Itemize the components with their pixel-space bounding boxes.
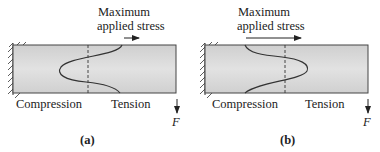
beam-stress-diagram: Maximum applied stress Compression Tensi…	[0, 0, 380, 152]
compression-label: Compression	[16, 97, 83, 111]
force-label: F	[171, 115, 180, 129]
tension-label: Tension	[305, 97, 345, 111]
panel-a: Maximum applied stress Compression Tensi…	[8, 5, 180, 147]
beam	[205, 45, 368, 93]
panel-caption: (b)	[280, 133, 295, 147]
compression-label: Compression	[212, 97, 279, 111]
tension-label: Tension	[111, 97, 151, 111]
title-line1: Maximum	[238, 5, 290, 19]
panel-caption: (a)	[80, 133, 95, 147]
title-line2: applied stress	[237, 19, 305, 33]
title-line2: applied stress	[97, 19, 165, 33]
force-label: F	[362, 115, 371, 129]
title-line1: Maximum	[98, 5, 150, 19]
beam	[13, 45, 176, 93]
panel-b: Maximum applied stress Compression Tensi…	[200, 5, 371, 147]
